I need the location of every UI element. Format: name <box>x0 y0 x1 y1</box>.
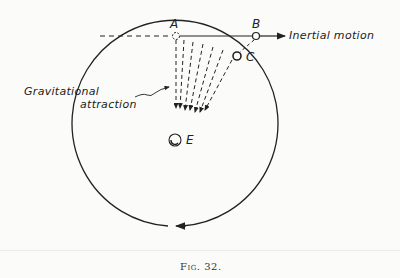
gravity-arrows <box>176 40 232 112</box>
figure-canvas: A B C E Inertial motion Gravitational at… <box>0 0 400 278</box>
label-b: B <box>252 18 260 30</box>
label-attraction: attraction <box>80 99 137 110</box>
page-rule <box>0 250 400 251</box>
label-a: A <box>170 18 178 30</box>
point-a-marker <box>173 33 180 40</box>
point-c-marker <box>233 52 241 60</box>
earth-icon <box>169 134 181 146</box>
figure-caption: Fig. 32. <box>180 261 222 272</box>
label-c: C <box>246 51 254 63</box>
attraction-leader <box>135 87 169 97</box>
label-inertial-motion: Inertial motion <box>289 30 374 41</box>
point-b-marker <box>253 33 260 40</box>
label-e: E <box>186 134 194 146</box>
label-gravitational: Gravitational <box>24 86 99 97</box>
